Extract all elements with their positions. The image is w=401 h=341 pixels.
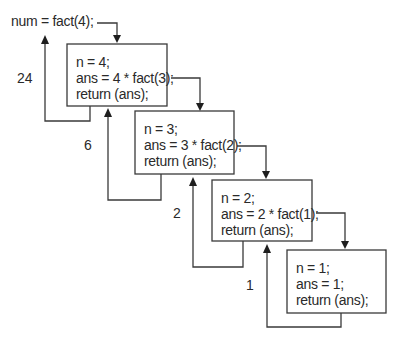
frame-line: n = 1; <box>296 260 330 276</box>
frame-line: ans = 3 * fact(2); <box>144 137 242 153</box>
return-value-label: 1 <box>246 277 254 293</box>
frame-line: ans = 1; <box>296 276 344 292</box>
arrowhead-up-icon <box>104 108 112 117</box>
frame-line: ans = 2 * fact(1); <box>221 206 319 222</box>
frame-line: return (ans); <box>296 292 368 308</box>
arrowhead-up-icon <box>263 244 271 253</box>
frame-1: n = 4; ans = 4 * fact(3); return (ans); <box>67 44 174 106</box>
frame-3: n = 2; ans = 2 * fact(1); return (ans); <box>212 180 319 241</box>
factorial-recursion-diagram: num = fact(4); n = 4; ans = 4 * fact(3);… <box>0 0 401 341</box>
arrowhead-down-icon <box>113 35 121 43</box>
return-value-label: 24 <box>17 70 33 86</box>
call-arrow-1 <box>171 78 204 111</box>
frame-line: ans = 4 * fact(3); <box>76 70 174 86</box>
arrowhead-down-icon <box>196 103 204 111</box>
frame-line: return (ans); <box>144 153 216 169</box>
frame-line: return (ans); <box>221 222 293 238</box>
caller-statement: num = fact(4); <box>11 13 94 29</box>
frame-4: n = 1; ans = 1; return (ans); <box>287 250 386 313</box>
call-arrow-3 <box>316 213 349 249</box>
frame-line: n = 3; <box>144 121 178 137</box>
frame-line: n = 2; <box>221 190 255 206</box>
frame-line: return (ans); <box>76 86 148 102</box>
frame-2: n = 3; ans = 3 * fact(2); return (ans); <box>135 111 242 174</box>
arrowhead-down-icon <box>341 241 349 249</box>
call-arrow-0 <box>97 23 121 43</box>
call-arrow-2 <box>237 146 270 179</box>
frame-line: n = 4; <box>76 54 110 70</box>
return-value-label: 6 <box>84 137 92 153</box>
arrowhead-up-icon <box>189 177 197 186</box>
arrowhead-down-icon <box>262 171 270 179</box>
return-value-label: 2 <box>173 205 181 221</box>
arrowhead-up-icon <box>41 35 49 44</box>
